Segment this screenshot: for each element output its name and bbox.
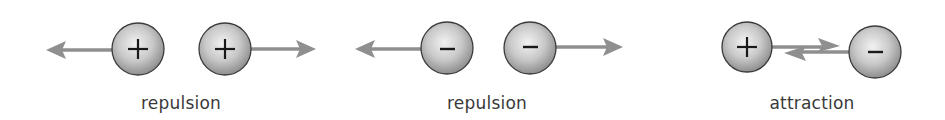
arrow-left-icon xyxy=(46,41,112,59)
label-attraction: attraction xyxy=(769,93,854,113)
negative-charge-icon xyxy=(849,26,901,78)
group-repulsion-negative xyxy=(355,22,623,74)
group-attraction xyxy=(722,22,901,78)
positive-charge-icon xyxy=(722,22,772,72)
arrow-right-icon xyxy=(555,38,623,56)
arrow-right-icon xyxy=(250,40,316,58)
positive-charge-icon xyxy=(112,23,164,75)
label-repulsion-positive: repulsion xyxy=(141,93,221,113)
negative-charge-icon xyxy=(504,22,556,74)
arrow-left-icon xyxy=(355,40,423,58)
negative-charge-icon xyxy=(421,22,473,74)
arrow-right-icon xyxy=(771,38,840,52)
label-repulsion-negative: repulsion xyxy=(447,93,527,113)
group-repulsion-positive xyxy=(46,23,316,75)
positive-charge-icon xyxy=(199,23,251,75)
